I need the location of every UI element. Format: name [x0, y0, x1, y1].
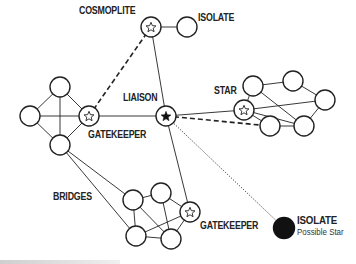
node-left-left — [20, 106, 40, 126]
node-star-n3 — [315, 90, 335, 110]
edges-layer — [30, 27, 325, 239]
node-left-top — [50, 77, 70, 97]
node-gatekeeper-left — [79, 106, 99, 126]
node-isolate-bottom — [274, 218, 295, 239]
node-star-n5 — [294, 116, 314, 136]
node-gatekeeper-bottom — [180, 202, 200, 222]
node-left-bottom — [50, 135, 70, 155]
node-bottom-b4 — [161, 229, 181, 249]
edge-liaison-star — [166, 110, 244, 116]
node-star-n4 — [260, 116, 280, 136]
edge-liaison-star-n4 — [166, 116, 270, 126]
node-bottom-b2 — [151, 183, 171, 203]
node-star-n2 — [283, 71, 303, 91]
label-bridges: BRIDGES — [53, 191, 92, 202]
label-liaison: LIAISON — [123, 92, 157, 103]
node-star-n1 — [243, 76, 263, 96]
label-possible-star: Possible Star — [297, 227, 344, 237]
label-star: STAR — [214, 85, 237, 96]
edge-star-star-n3 — [244, 100, 325, 110]
nodes-layer — [20, 17, 335, 249]
node-star — [234, 100, 254, 120]
label-cosmoplite: COSMOPLITE — [79, 5, 135, 16]
node-bottom-b1 — [123, 190, 143, 210]
scan-edge-shadow — [0, 260, 120, 264]
label-isolate-bottom: ISOLATE — [297, 214, 337, 226]
node-isolate-top — [177, 17, 197, 37]
node-cosmoplite — [141, 17, 161, 37]
node-bottom-b3 — [126, 226, 146, 246]
label-isolate-top: ISOLATE — [198, 12, 234, 23]
label-gatekeeper-left: GATEKEEPER — [88, 129, 146, 140]
node-liaison — [156, 106, 176, 126]
label-gatekeeper-bottom: GATEKEEPER — [200, 220, 258, 231]
